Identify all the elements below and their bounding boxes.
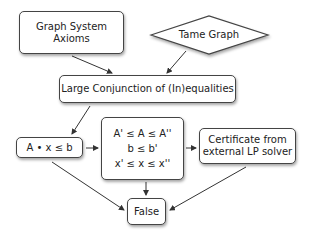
- node-bounds: A' ≤ A ≤ A'' b ≤ b' x' ≤ x ≤ x'': [101, 117, 184, 180]
- node-graph-system-axioms: Graph System Axioms: [19, 11, 124, 54]
- node-label: False: [134, 206, 159, 218]
- edge-axioms-to-conjunction: [72, 56, 112, 73]
- node-false: False: [127, 198, 166, 225]
- node-large-conjunction: Large Conjunction of (In)equalities: [59, 75, 236, 103]
- node-tame-graph-label: Tame Graph: [170, 29, 248, 40]
- node-label-line: A' ≤ A ≤ A'': [113, 126, 171, 141]
- node-label-line: Graph System: [36, 21, 107, 33]
- node-label-line: Axioms: [53, 33, 90, 45]
- node-label: A • x ≤ b: [26, 142, 72, 154]
- edge-conjunction-to-linear: [72, 106, 90, 134]
- edge-tame-to-conjunction: [167, 51, 186, 73]
- node-label: Large Conjunction of (In)equalities: [61, 83, 234, 95]
- node-label-line: x' ≤ x ≤ x'': [115, 156, 170, 171]
- node-label-line: external LP solver: [203, 146, 292, 158]
- node-label-line: Certificate from: [208, 134, 286, 146]
- node-certificate: Certificate from external LP solver: [199, 128, 296, 164]
- node-linear-system: A • x ≤ b: [16, 137, 83, 158]
- node-label-line: b ≤ b': [127, 141, 157, 156]
